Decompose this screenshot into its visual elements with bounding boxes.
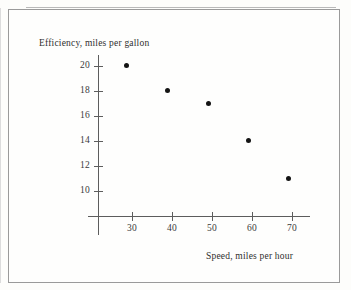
- x-axis-tick-40: [172, 212, 173, 221]
- x-axis-label-60: 60: [241, 223, 263, 233]
- y-axis-label-10: 10: [68, 185, 90, 195]
- x-axis-label-70: 70: [281, 223, 303, 233]
- y-axis-title: Efficiency, miles per gallon: [39, 38, 149, 48]
- data-point: [286, 176, 291, 181]
- scatter-plot: 20 18 16 14 12 10 30 40 50 60 70 Efficie…: [0, 0, 351, 290]
- y-axis-tick-14: [94, 141, 103, 142]
- y-axis-tick-10: [94, 191, 103, 192]
- x-axis-title: Speed, miles per hour: [206, 251, 293, 261]
- y-axis-line: [98, 55, 99, 235]
- y-axis-tick-20: [94, 66, 103, 67]
- y-axis-tick-16: [94, 116, 103, 117]
- x-axis-tick-60: [252, 212, 253, 221]
- data-point: [206, 101, 211, 106]
- x-axis-line: [88, 216, 310, 217]
- y-axis-tick-18: [94, 91, 103, 92]
- y-axis-label-18: 18: [68, 85, 90, 95]
- figure-page: 20 18 16 14 12 10 30 40 50 60 70 Efficie…: [0, 0, 351, 290]
- data-point: [165, 88, 170, 93]
- x-axis-label-50: 50: [201, 223, 223, 233]
- data-point: [124, 63, 129, 68]
- y-axis-label-14: 14: [68, 135, 90, 145]
- x-axis-tick-30: [132, 212, 133, 221]
- x-axis-tick-70: [292, 212, 293, 221]
- x-axis-tick-50: [212, 212, 213, 221]
- y-axis-tick-12: [94, 166, 103, 167]
- y-axis-label-12: 12: [68, 160, 90, 170]
- y-axis-label-16: 16: [68, 110, 90, 120]
- data-point: [246, 138, 251, 143]
- x-axis-label-40: 40: [161, 223, 183, 233]
- x-axis-label-30: 30: [121, 223, 143, 233]
- y-axis-label-20: 20: [68, 60, 90, 70]
